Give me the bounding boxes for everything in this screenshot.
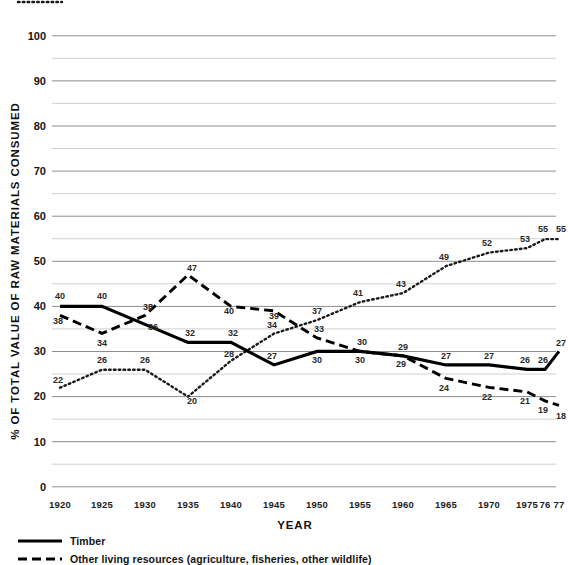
label-mineral-1925: 26 <box>97 355 107 365</box>
x-tick-1955: 1955 <box>349 499 371 510</box>
label-timber-1920: 40 <box>55 291 65 301</box>
x-tick-1935: 1935 <box>177 499 199 510</box>
chart-figure: 100 90 80 70 60 50 40 30 20 10 0 1920 19… <box>0 0 568 565</box>
x-tick-1920: 1920 <box>49 499 71 510</box>
label-timber-1945: 27 <box>267 351 277 361</box>
y-tick-30: 30 <box>34 345 46 357</box>
label-other-1925: 34 <box>97 338 107 348</box>
x-tick-1960: 1960 <box>392 499 414 510</box>
label-timber-1970: 27 <box>484 351 494 361</box>
x-tick-1965: 1965 <box>435 499 457 510</box>
x-tick-1975: 1975 <box>516 499 538 510</box>
label-mineral-1945: 34 <box>267 320 277 330</box>
label-timber-1925: 40 <box>97 291 107 301</box>
x-tick-1970: 1970 <box>478 499 500 510</box>
y-tick-10: 10 <box>34 436 46 448</box>
label-mineral-1940: 28 <box>224 349 234 359</box>
y-tick-60: 60 <box>34 210 46 222</box>
y-tick-50: 50 <box>34 255 46 267</box>
series-line-other-living-resources <box>60 275 559 406</box>
label-mineral-1950: 37 <box>312 306 322 316</box>
x-axis-title: YEAR <box>277 519 313 531</box>
label-other-77: 18 <box>556 411 566 421</box>
y-tick-20: 20 <box>34 390 46 402</box>
label-timber-1960: 29 <box>396 359 406 369</box>
label-other-1920: 38 <box>53 316 63 326</box>
label-other-1960: 29 <box>398 342 408 352</box>
x-tick-1945: 1945 <box>263 499 285 510</box>
label-other-1975: 21 <box>520 396 530 406</box>
label-mineral-1960: 43 <box>396 279 406 289</box>
y-tick-0: 0 <box>40 481 46 493</box>
label-timber-1935: 32 <box>185 328 195 338</box>
label-timber-77: 27 <box>556 338 566 348</box>
x-tick-1940: 1940 <box>220 499 242 510</box>
y-tick-70: 70 <box>34 165 46 177</box>
label-mineral-77: 55 <box>556 224 566 234</box>
data-labels-other-living-resources: 38 34 38 47 40 39 33 30 29 24 22 21 19 1… <box>53 263 566 421</box>
y-axis-title: % OF TOTAL VALUE OF RAW MATERIALS CONSUM… <box>9 102 21 440</box>
label-mineral-1955: 41 <box>353 288 363 298</box>
data-labels-timber: 40 40 36 32 32 27 30 30 29 27 27 26 26 2… <box>55 291 566 369</box>
label-timber-1955: 30 <box>355 355 365 365</box>
label-mineral-1970: 52 <box>482 238 492 248</box>
data-labels-minerals: 22 26 26 20 28 34 37 41 43 49 52 53 55 5… <box>53 224 566 406</box>
label-mineral-1975: 53 <box>520 234 530 244</box>
label-timber-1975: 26 <box>520 355 530 365</box>
y-axis-tick-labels: 100 90 80 70 60 50 40 30 20 10 0 <box>28 30 46 493</box>
label-mineral-1965: 49 <box>439 252 449 262</box>
label-mineral-1935: 20 <box>187 396 197 406</box>
label-mineral-1930: 26 <box>140 355 150 365</box>
label-mineral-76: 55 <box>538 224 548 234</box>
label-other-1955: 30 <box>357 337 367 347</box>
label-other-1950: 33 <box>314 324 324 334</box>
label-timber-76: 26 <box>538 355 548 365</box>
label-other-76: 19 <box>538 405 548 415</box>
x-tick-1925: 1925 <box>91 499 113 510</box>
label-timber-1950: 30 <box>312 355 322 365</box>
label-timber-1930: 36 <box>148 322 158 332</box>
y-tick-90: 90 <box>34 75 46 87</box>
label-timber-1940: 32 <box>228 328 238 338</box>
series-line-minerals <box>60 239 559 397</box>
label-other-1940: 40 <box>224 306 234 316</box>
label-other-1935: 47 <box>187 263 197 273</box>
label-other-1970: 22 <box>482 392 492 402</box>
y-tick-80: 80 <box>34 120 46 132</box>
label-mineral-1920: 22 <box>53 375 63 385</box>
label-other-1930: 38 <box>143 302 153 312</box>
label-other-1965: 24 <box>439 383 449 393</box>
legend-label-other-living-resources: Other living resources (agriculture, fis… <box>70 553 372 565</box>
y-tick-40: 40 <box>34 300 46 312</box>
chart-svg: 100 90 80 70 60 50 40 30 20 10 0 1920 19… <box>0 0 568 565</box>
x-tick-77: 77 <box>554 499 565 510</box>
label-timber-1965: 27 <box>441 351 451 361</box>
x-tick-1930: 1930 <box>134 499 156 510</box>
x-tick-1950: 1950 <box>306 499 328 510</box>
y-tick-100: 100 <box>28 30 46 42</box>
x-axis-tick-labels: 1920 1925 1930 1935 1940 1945 1950 1955 … <box>49 499 564 510</box>
legend-label-timber: Timber <box>70 535 105 547</box>
x-tick-76: 76 <box>540 499 551 510</box>
